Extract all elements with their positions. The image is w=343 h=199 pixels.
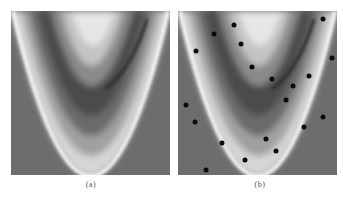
caption-b: (b) [240, 180, 280, 189]
sample-point [307, 74, 312, 79]
sample-point [232, 23, 237, 28]
sample-point [274, 149, 279, 154]
contour-plot-b [178, 11, 337, 175]
caption-a: (a) [71, 180, 111, 189]
sample-point [250, 65, 255, 70]
sample-point [321, 17, 326, 22]
panel-a-heatmap [11, 11, 170, 175]
sample-point [204, 168, 209, 173]
sample-point [212, 32, 217, 37]
sample-point [220, 141, 225, 146]
sample-point [264, 137, 269, 142]
sample-point [184, 103, 189, 108]
sample-point [330, 56, 335, 61]
sample-point [270, 77, 275, 82]
sample-point [284, 98, 289, 103]
contour-plot-a [11, 11, 170, 175]
panel-b-heatmap [178, 11, 337, 175]
sample-point [193, 120, 198, 125]
sample-point [243, 158, 248, 163]
sample-point [194, 49, 199, 54]
sample-point [291, 84, 296, 89]
sample-point [239, 42, 244, 47]
sample-point [321, 115, 326, 120]
sample-point [302, 125, 307, 130]
